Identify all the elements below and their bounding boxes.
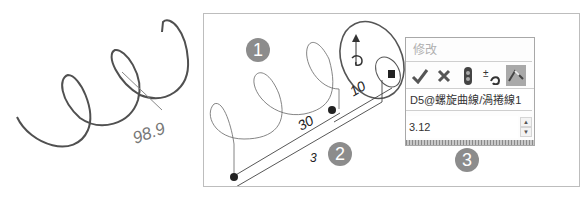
svg-text:±: ± [483,68,489,79]
helix-figure: 98.9 [0,0,200,200]
modify-dialog-title: 修改 [406,38,532,62]
callout-badge-1: 1 [246,38,270,62]
callout-badge-2: 2 [328,142,352,166]
dimension-value-input[interactable]: 3.12 [406,116,518,138]
spin-down-button[interactable]: ▼ [520,127,532,137]
mark-dimension-button[interactable] [506,65,526,86]
dimension-name-field: D5@螺旋曲線/渦捲線1 [406,89,532,111]
rebuild-icon [463,66,473,86]
ok-button[interactable] [410,65,430,86]
value-spinner: ▲ ▼ [520,117,532,137]
check-icon [411,68,429,84]
modify-toolbar: ± [406,63,534,89]
modify-dialog: 修改 ± D5@螺旋曲線/渦捲線1 3.12 ▲ ▼ [405,37,535,146]
dimension-30[interactable]: 30 [295,112,317,134]
reset-value-icon: ± [482,67,502,85]
spin-up-button[interactable]: ▲ [520,117,532,127]
mark-dimension-icon [507,67,525,85]
rebuild-button[interactable] [458,65,478,86]
thumbwheel-slider[interactable] [406,140,534,145]
callout-badge-3: 3 [455,148,479,172]
close-icon [436,68,452,84]
dimension-3[interactable]: 3 [310,151,317,165]
helix-curve: 98.9 [0,0,200,200]
angle-label: 98.9 [130,118,168,147]
reset-value-button[interactable]: ± [482,65,502,86]
cancel-button[interactable] [434,65,454,86]
